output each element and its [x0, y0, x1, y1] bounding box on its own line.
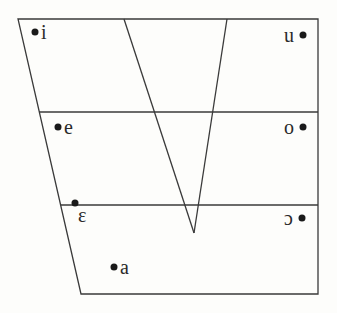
- vowel-dot: [32, 29, 39, 36]
- vowel-dot: [300, 32, 307, 39]
- vowel-label: ɔ: [284, 207, 293, 229]
- vowel-label: e: [64, 116, 73, 138]
- quadrilateral-outline: [18, 19, 318, 294]
- vowel-dot: [299, 215, 306, 222]
- vowel-label: u: [284, 24, 294, 46]
- vowel-chart-svg: i u e o ɛ ɔ a: [0, 0, 337, 313]
- vowel-a: a: [111, 256, 130, 278]
- vowel-chart: i u e o ɛ ɔ a: [0, 0, 337, 313]
- vowel-label: o: [284, 116, 294, 138]
- vowel-u: u: [284, 24, 307, 46]
- vowel-dot: [300, 124, 307, 131]
- vowel-o: o: [284, 116, 307, 138]
- vowel-open-o: ɔ: [284, 207, 306, 229]
- vowel-label: a: [120, 256, 129, 278]
- vowel-i: i: [32, 21, 48, 43]
- vowel-open-e: ɛ: [72, 200, 87, 227]
- vowel-e: e: [55, 116, 74, 138]
- vowel-label: ɛ: [78, 204, 86, 226]
- vowel-label: i: [41, 21, 47, 43]
- v-left-line: [124, 19, 194, 233]
- vowel-dot: [55, 124, 62, 131]
- v-right-line: [194, 19, 227, 233]
- vowel-dot: [111, 264, 118, 271]
